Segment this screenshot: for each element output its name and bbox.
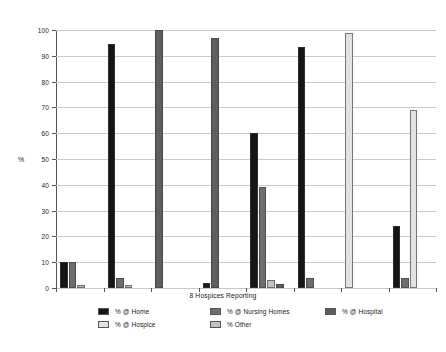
y-tick-label: 90 — [42, 52, 49, 59]
bar — [203, 283, 211, 288]
legend-column: % @ Home% @ Hospice — [98, 306, 156, 332]
bar — [306, 278, 314, 288]
bar — [125, 285, 133, 288]
y-tick-label: 50 — [42, 156, 49, 163]
y-tick-label: 60 — [42, 130, 49, 137]
y-tick-label: 10 — [42, 259, 49, 266]
bar — [401, 278, 409, 288]
bar-group — [246, 30, 294, 288]
y-tick-label: 30 — [42, 207, 49, 214]
bar — [116, 278, 124, 288]
legend-item[interactable]: % @ Hospital — [325, 306, 383, 317]
bar — [77, 285, 85, 288]
legend-item[interactable]: % @ Nursing Homes — [210, 306, 289, 317]
bar — [60, 262, 68, 288]
y-tick-label: 100 — [38, 27, 49, 34]
bar-group — [104, 30, 152, 288]
bar-chart: % 0102030405060708090100 8 Hospices Repo… — [0, 0, 446, 352]
bar — [345, 33, 353, 288]
bar-group — [341, 30, 389, 288]
legend-swatch-icon — [210, 308, 221, 315]
chart-legend: % @ Home% @ Hospice% @ Nursing Homes% Ot… — [0, 306, 446, 340]
legend-column: % @ Nursing Homes% Other — [210, 306, 289, 332]
legend-column: % @ Hospital — [325, 306, 383, 319]
bar — [410, 110, 418, 288]
bar-group — [151, 30, 199, 288]
x-axis-title: 8 Hospices Reporting — [0, 292, 446, 299]
bar — [69, 262, 77, 288]
legend-item-label: % @ Hospice — [115, 321, 156, 328]
bar — [298, 47, 306, 288]
legend-item[interactable]: % @ Home — [98, 306, 156, 317]
bar — [276, 284, 284, 288]
y-axis-title: % — [18, 156, 24, 163]
bar — [155, 30, 163, 288]
bar — [108, 44, 116, 288]
plot-area: 0102030405060708090100 — [56, 30, 436, 288]
bar-group — [389, 30, 437, 288]
y-tick-label: 40 — [42, 181, 49, 188]
bar — [267, 280, 275, 288]
legend-item-label: % @ Nursing Homes — [227, 308, 289, 315]
bar — [259, 187, 267, 288]
bar — [211, 38, 219, 288]
bar-group — [56, 30, 104, 288]
y-tick-label: 80 — [42, 78, 49, 85]
bar — [393, 226, 401, 288]
legend-swatch-icon — [98, 308, 109, 315]
bar — [250, 133, 258, 288]
legend-swatch-icon — [210, 321, 221, 328]
bar-group — [199, 30, 247, 288]
legend-item[interactable]: % @ Hospice — [98, 319, 156, 330]
legend-item-label: % @ Hospital — [342, 308, 383, 315]
legend-swatch-icon — [325, 308, 336, 315]
legend-item-label: % @ Home — [115, 308, 149, 315]
y-tick-label: 0 — [45, 285, 49, 292]
y-tick-label: 20 — [42, 233, 49, 240]
bar-group — [294, 30, 342, 288]
legend-item-label: % Other — [227, 321, 252, 328]
legend-swatch-icon — [98, 321, 109, 328]
legend-item[interactable]: % Other — [210, 319, 289, 330]
y-tick-label: 70 — [42, 104, 49, 111]
